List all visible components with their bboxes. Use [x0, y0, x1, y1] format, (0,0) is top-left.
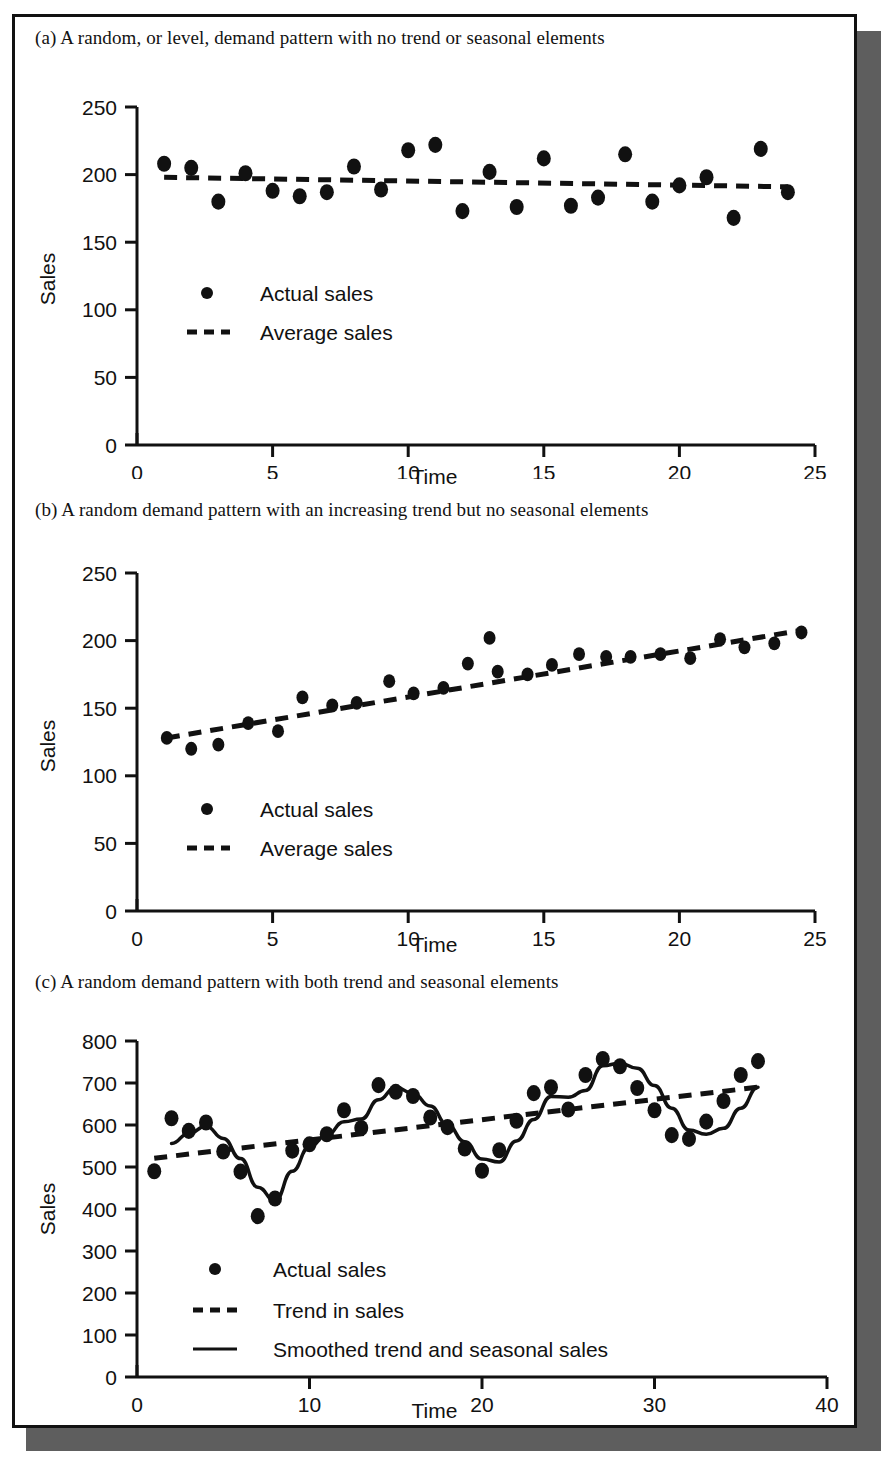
data-point: [238, 165, 252, 181]
data-point: [645, 194, 659, 210]
data-point: [754, 141, 768, 157]
panel-b-ytick-150: 150: [82, 697, 117, 720]
data-point: [242, 716, 254, 730]
data-point: [272, 724, 284, 738]
data-point: [714, 632, 726, 646]
data-point: [699, 1114, 713, 1130]
panel-c-ytick-400: 400: [82, 1198, 117, 1221]
data-point: [727, 210, 741, 226]
data-point: [654, 647, 666, 661]
data-point: [165, 1110, 179, 1126]
panel-c-ytick-300: 300: [82, 1240, 117, 1263]
data-point: [408, 686, 420, 700]
data-point: [462, 657, 474, 671]
panel-b-trendline: [167, 630, 804, 738]
panel-c-legend-label-0: Actual sales: [273, 1258, 386, 1281]
legend-dot-icon: [201, 803, 213, 815]
panel-c-points: [147, 1051, 765, 1224]
panel-a-svg: 250 200 150 100 50 0 0: [15, 49, 855, 479]
panel-a-legend-label-1: Average sales: [260, 321, 393, 344]
data-point: [401, 142, 415, 158]
data-point: [296, 690, 308, 704]
panel-c-ytick-100: 100: [82, 1324, 117, 1347]
panel-c: (c) A random demand pattern with both tr…: [15, 957, 854, 1423]
data-point: [458, 1140, 472, 1156]
data-point: [374, 181, 388, 197]
data-point: [475, 1163, 489, 1179]
data-point: [184, 160, 198, 176]
data-point: [781, 184, 795, 200]
trend-line: [167, 630, 804, 738]
data-point: [320, 1126, 334, 1142]
data-point: [423, 1109, 437, 1125]
data-point: [591, 190, 605, 206]
data-point: [303, 1136, 317, 1152]
panel-c-y-ticks: [125, 1041, 137, 1377]
data-point: [351, 696, 363, 710]
panel-c-ytick-800: 800: [82, 1030, 117, 1053]
data-point: [483, 164, 497, 180]
panel-b-ytick-100: 100: [82, 764, 117, 787]
data-point: [389, 1084, 403, 1100]
panel-c-xtick-30: 30: [643, 1393, 666, 1413]
data-point: [618, 146, 632, 162]
data-point: [546, 658, 558, 672]
data-point: [648, 1102, 662, 1118]
data-point: [682, 1131, 696, 1147]
panel-c-trendline: [154, 1087, 758, 1158]
panel-a-legend-label-0: Actual sales: [260, 282, 373, 305]
data-point: [665, 1127, 679, 1143]
panel-a-ylabel: Sales: [36, 253, 59, 306]
panel-a-y-ticks: [125, 107, 137, 445]
panel-c-ytick-0: 0: [105, 1366, 117, 1389]
panel-b-ylabel: Sales: [36, 720, 59, 773]
panel-c-ytick-200: 200: [82, 1282, 117, 1305]
panel-c-legend-label-1: Trend in sales: [273, 1299, 404, 1322]
data-point: [600, 650, 612, 664]
data-point: [684, 651, 696, 665]
panel-a-ytick-50: 50: [94, 366, 117, 389]
data-point: [768, 636, 780, 650]
panel-b-y-ticks: [125, 573, 137, 911]
data-point: [522, 668, 534, 682]
data-point: [510, 199, 524, 215]
data-point: [751, 1053, 765, 1069]
data-point: [484, 631, 496, 645]
panel-c-ytick-500: 500: [82, 1156, 117, 1179]
panel-b-ytick-250: 250: [82, 562, 117, 585]
data-point: [738, 640, 750, 654]
data-point: [251, 1208, 265, 1224]
panel-c-xtick-10: 10: [298, 1393, 321, 1413]
panel-c-ylabel: Sales: [36, 1183, 59, 1236]
panel-b-ytick-200: 200: [82, 629, 117, 652]
data-point: [199, 1114, 213, 1130]
data-point: [527, 1085, 541, 1101]
panel-a-caption: (a) A random, or level, demand pattern w…: [15, 17, 854, 49]
data-point: [161, 731, 173, 745]
data-point: [544, 1079, 558, 1095]
data-point: [147, 1163, 161, 1179]
trend-line: [164, 177, 788, 186]
data-point: [337, 1102, 351, 1118]
data-point: [630, 1080, 644, 1096]
legend-dot-icon: [201, 287, 213, 299]
panel-a-ytick-200: 200: [82, 163, 117, 186]
panel-a-trendline: [164, 177, 788, 186]
panel-c-xtick-20: 20: [470, 1393, 493, 1413]
panel-a-ytick-250: 250: [82, 96, 117, 119]
data-point: [510, 1113, 524, 1129]
panel-b-legend-label-0: Actual sales: [260, 798, 373, 821]
data-point: [537, 150, 551, 166]
panel-a-xlabel-wrap: Time: [0, 465, 869, 489]
data-point: [268, 1190, 282, 1206]
data-point: [326, 699, 338, 713]
panel-b-xtick-5: 5: [267, 927, 279, 950]
data-point: [428, 137, 442, 153]
data-point: [320, 184, 334, 200]
panel-b-plot: 250 200 150 100 50 0 0 5: [15, 521, 854, 951]
panel-a: (a) A random, or level, demand pattern w…: [15, 17, 854, 479]
data-point: [561, 1101, 575, 1117]
data-point: [406, 1088, 420, 1104]
data-point: [492, 1142, 506, 1158]
data-point: [211, 194, 225, 210]
